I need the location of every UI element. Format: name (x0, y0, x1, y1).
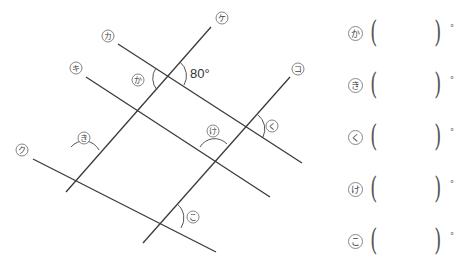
svg-text:カ: カ (104, 32, 112, 41)
answer-row-ka: か ( ) ° (348, 12, 474, 64)
answer-row-ki: き ( ) ° (348, 64, 474, 116)
svg-text:ケ: ケ (218, 14, 226, 23)
open-paren: ( (370, 118, 377, 154)
label-angle-ku: く (266, 120, 278, 132)
answer-label: か (348, 26, 363, 41)
angle-arc-80 (180, 62, 187, 85)
label-angle-ka: か (132, 74, 144, 86)
svg-text:こ: こ (189, 213, 197, 222)
answer-label: こ (348, 234, 363, 249)
open-paren: ( (370, 66, 377, 102)
label-ka-line: カ (102, 30, 114, 42)
angle-arc-ka (153, 68, 157, 90)
angle-arc-ko (177, 204, 184, 228)
answer-label: く (348, 130, 363, 145)
degree-unit: ° (450, 128, 454, 137)
svg-text:キ: キ (72, 64, 80, 73)
label-angle-ke: け (207, 125, 219, 137)
answer-label: け (348, 182, 363, 197)
answer-column: か ( ) ° き ( ) ° く ( ) ° け ( ) ° こ ( ) ° (348, 12, 474, 264)
open-paren: ( (370, 170, 377, 206)
label-ki-line: キ (70, 62, 82, 74)
answer-row-ku: く ( ) ° (348, 116, 474, 168)
close-paren: ) (434, 170, 441, 206)
open-paren: ( (370, 222, 377, 258)
line-ko (143, 77, 290, 243)
answer-row-ke: け ( ) ° (348, 168, 474, 220)
given-angle-80: 80° (190, 66, 210, 81)
label-angle-ki: き (78, 132, 90, 144)
label-angle-ko: こ (187, 211, 199, 223)
close-paren: ) (434, 222, 441, 258)
svg-text:か: か (134, 76, 142, 85)
parallel-lines-diagram: カ キ ク ケ コ か き く け こ 80° (0, 0, 340, 264)
close-paren: ) (434, 118, 441, 154)
close-paren: ) (434, 14, 441, 50)
degree-unit: ° (450, 76, 454, 85)
close-paren: ) (434, 66, 441, 102)
angle-arc-ke (200, 139, 227, 147)
degree-unit: ° (450, 24, 454, 33)
svg-text:コ: コ (294, 65, 302, 74)
answer-label: き (348, 78, 363, 93)
svg-text:ク: ク (18, 146, 26, 155)
line-ku (33, 159, 216, 252)
open-paren: ( (370, 14, 377, 50)
angle-arc-ku (258, 115, 265, 137)
answer-row-ko: こ ( ) ° (348, 220, 474, 264)
svg-text:き: き (80, 134, 88, 143)
line-ke (66, 27, 211, 192)
label-ke-line: ケ (216, 12, 228, 24)
degree-unit: ° (450, 232, 454, 241)
label-ku-line: ク (16, 144, 28, 156)
svg-text:く: く (268, 122, 276, 131)
svg-text:け: け (209, 127, 217, 136)
line-ka (118, 44, 302, 163)
label-ko-line: コ (292, 63, 304, 75)
degree-unit: ° (450, 180, 454, 189)
